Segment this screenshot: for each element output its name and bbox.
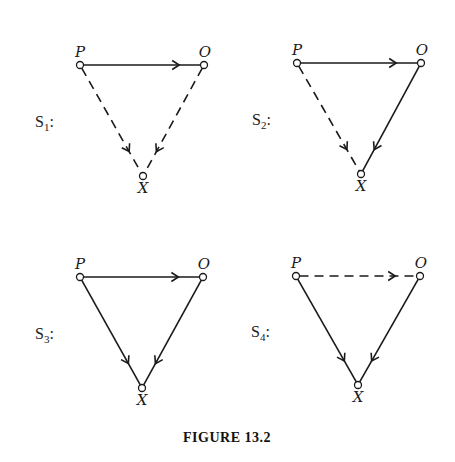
edge-o-x-solid [363, 66, 420, 171]
node-p [77, 274, 84, 281]
diagram-s2: POXS2: [252, 41, 428, 195]
edge-p-x-dashed [82, 68, 142, 173]
figure-canvas: POXS1:POXS2:POXS3:POXS4: FIGURE 13.2 [0, 0, 455, 462]
node-label-x: X [355, 177, 368, 195]
arrowhead-icon [340, 141, 348, 149]
node-o [201, 62, 208, 69]
node-p [294, 60, 301, 67]
edge-p-x-solid [298, 279, 357, 382]
edge-p-x-dashed [299, 66, 360, 171]
node-p [293, 273, 300, 280]
node-label-o: O [198, 255, 210, 273]
diagram-s3: POXS3: [35, 255, 210, 409]
diagram-s1: POXS1: [35, 43, 211, 197]
node-label-o: O [415, 254, 427, 272]
node-o [417, 273, 424, 280]
arrowhead-icon [156, 143, 164, 151]
diagram-s4: POXS4: [251, 254, 427, 406]
diagram-label: S1: [35, 113, 54, 133]
diagram-group: POXS1:POXS2:POXS3:POXS4: [35, 41, 428, 409]
node-label-o: O [199, 43, 211, 61]
diagram-label: S3: [35, 325, 54, 345]
diagram-label: S4: [251, 323, 270, 343]
edge-o-x-solid [144, 280, 202, 385]
node-o [418, 60, 425, 67]
node-label-p: P [291, 41, 303, 59]
edge-o-x-dashed [145, 68, 203, 173]
diagram-label: S2: [252, 111, 271, 131]
node-label-x: X [136, 391, 149, 409]
node-label-p: P [74, 255, 86, 273]
figure-caption: FIGURE 13.2 [183, 430, 271, 445]
arrowhead-icon [122, 143, 130, 151]
edge-o-x-solid [360, 279, 419, 382]
node-label-p: P [290, 254, 302, 272]
node-label-x: X [137, 179, 150, 197]
edge-p-x-solid [82, 280, 141, 385]
node-label-x: X [352, 388, 365, 406]
node-label-o: O [416, 41, 428, 59]
node-label-p: P [74, 43, 86, 61]
node-p [77, 62, 84, 69]
node-o [200, 274, 207, 281]
